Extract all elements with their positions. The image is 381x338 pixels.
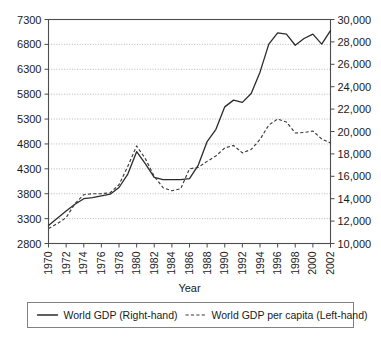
right-axis-tick-label: 22,000	[338, 103, 372, 115]
series-line-gdp	[49, 31, 331, 226]
right-axis-tick-label: 28,000	[338, 36, 372, 48]
x-axis-tick-label: 1996	[271, 251, 283, 275]
x-axis-tick-label: 1988	[201, 251, 213, 275]
right-axis-tick-label: 18,000	[338, 148, 372, 160]
x-axis-tick-label: 1976	[95, 251, 107, 275]
legend-label-gdp: World GDP (Right-hand)	[64, 309, 178, 321]
gdp-line-chart: 2800330038004300480053005800630068007300…	[0, 0, 381, 338]
chart-container: 2800330038004300480053005800630068007300…	[0, 0, 381, 338]
series-line-per-capita	[49, 119, 331, 229]
x-axis-tick-label: 1978	[113, 251, 125, 275]
left-axis-tick-label: 3300	[17, 213, 41, 225]
left-axis-tick-label: 6800	[17, 38, 41, 50]
right-axis-tick-label: 16,000	[338, 170, 372, 182]
x-axis-tick-label: 1970	[42, 251, 54, 275]
x-axis-tick-label: 2000	[306, 251, 318, 275]
right-axis-tick-label: 10,000	[338, 238, 372, 250]
x-axis-tick-label: 1982	[148, 251, 160, 275]
left-axis-tick-label: 4300	[17, 163, 41, 175]
left-axis-tick-label: 5300	[17, 113, 41, 125]
right-axis-tick-label: 12,000	[338, 215, 372, 227]
x-axis-tick-label: 1990	[218, 251, 230, 275]
legend-label-per-capita: World GDP per capita (Left-hand)	[212, 309, 368, 321]
plot-frame	[49, 20, 331, 244]
left-axis-tick-label: 6300	[17, 63, 41, 75]
x-axis-tick-label: 1972	[60, 251, 72, 275]
right-axis-tick-label: 30,000	[338, 14, 372, 26]
right-axis-tick-label: 20,000	[338, 126, 372, 138]
left-axis-tick-label: 3800	[17, 188, 41, 200]
x-axis-title: Year	[178, 282, 201, 294]
x-axis-tick-label: 1998	[289, 251, 301, 275]
right-axis-tick-label: 24,000	[338, 81, 372, 93]
right-axis-tick-label: 26,000	[338, 58, 372, 70]
left-axis-tick-label: 2800	[17, 238, 41, 250]
x-axis-tick-label: 1984	[165, 251, 177, 275]
x-axis-tick-label: 1980	[130, 251, 142, 275]
x-axis-tick-label: 1974	[77, 251, 89, 275]
x-axis-tick-label: 1986	[183, 251, 195, 275]
left-axis-tick-label: 4800	[17, 138, 41, 150]
right-axis-tick-label: 14,000	[338, 193, 372, 205]
x-axis-tick-label: 2002	[324, 251, 336, 275]
x-axis-tick-label: 1992	[236, 251, 248, 275]
left-axis-tick-label: 5800	[17, 88, 41, 100]
left-axis-tick-label: 7300	[17, 14, 41, 26]
x-axis-tick-label: 1994	[254, 251, 266, 275]
